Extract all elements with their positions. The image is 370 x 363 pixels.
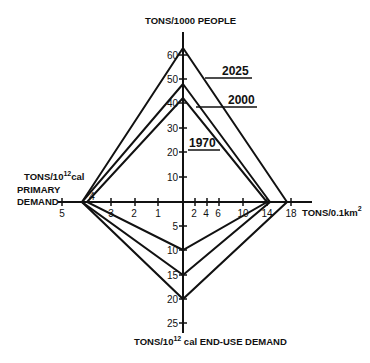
- svg-text:15: 15: [167, 270, 179, 281]
- series-2000-label: 2000: [228, 93, 255, 107]
- series-1970-label: 1970: [189, 136, 216, 150]
- svg-text:30: 30: [167, 123, 179, 134]
- svg-text:18: 18: [285, 208, 297, 219]
- svg-text:6: 6: [215, 208, 221, 219]
- svg-text:20: 20: [167, 294, 179, 305]
- svg-text:5: 5: [172, 221, 178, 232]
- bottom-axis-title: TONS/1012 cal END-USE DEMAND: [134, 335, 287, 347]
- svg-text:1: 1: [155, 208, 161, 219]
- bottom-tick-labels: 5 10 15 20 25: [167, 221, 179, 329]
- svg-text:2: 2: [191, 208, 197, 219]
- svg-text:25: 25: [167, 318, 179, 329]
- right-axis-title: TONS/0.1km2: [302, 205, 362, 218]
- svg-text:PRIMARY: PRIMARY: [17, 184, 61, 195]
- left-tick-labels: 1 2 3 4 5: [59, 191, 161, 219]
- svg-text:TONS/1012cal: TONS/1012cal: [24, 170, 84, 182]
- svg-text:60: 60: [167, 50, 179, 61]
- svg-text:10: 10: [167, 172, 179, 183]
- svg-text:DEMAND: DEMAND: [17, 196, 59, 207]
- svg-text:4: 4: [203, 208, 209, 219]
- svg-text:10: 10: [237, 208, 249, 219]
- svg-text:10: 10: [167, 245, 179, 256]
- top-axis-title: TONS/1000 PEOPLE: [145, 15, 236, 26]
- svg-text:4: 4: [89, 191, 95, 202]
- svg-text:3: 3: [108, 208, 114, 219]
- svg-text:40: 40: [167, 98, 179, 109]
- series-2025-label: 2025: [222, 64, 249, 78]
- svg-text:50: 50: [167, 74, 179, 85]
- svg-text:5: 5: [59, 208, 65, 219]
- radar-diagram: 2025 2000 1970 TONS/1000 PEOPLE 10 20 30…: [0, 0, 370, 363]
- svg-text:20: 20: [167, 147, 179, 158]
- right-tick-labels: 2 4 6 10 14 18: [191, 208, 297, 219]
- svg-text:14: 14: [261, 208, 273, 219]
- svg-text:2: 2: [131, 208, 137, 219]
